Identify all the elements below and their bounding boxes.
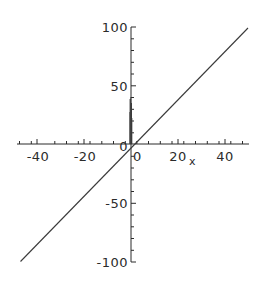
x-tick-label-neg40: -40 <box>23 150 53 163</box>
y-tick-label-0: 0 <box>112 140 128 153</box>
x-tick-label-40: 40 <box>212 150 238 163</box>
x-tick-label-20: 20 <box>165 150 191 163</box>
y-tick-label-neg50: -50 <box>88 197 128 210</box>
x-tick-label-neg20: -20 <box>70 150 100 163</box>
series-identity-line <box>21 28 249 262</box>
x-axis-label: x <box>189 156 196 167</box>
x-tick-label-0: 0 <box>133 150 145 163</box>
y-tick-label-neg100: -100 <box>81 256 128 269</box>
y-tick-label-100: 100 <box>88 21 128 34</box>
series-origin-spike <box>130 97 133 144</box>
plot-canvas <box>0 0 262 283</box>
y-tick-label-50: 50 <box>95 80 128 93</box>
plot-figure: 100 50 0 -50 -100 -40 -20 0 20 40 x <box>0 0 262 283</box>
